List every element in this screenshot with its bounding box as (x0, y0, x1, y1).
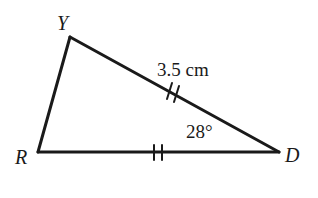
side-RY (38, 37, 70, 152)
vertex-label-D: D (285, 145, 299, 165)
angle-measure-label-D: 28° (186, 122, 213, 141)
triangle-diagram-canvas (0, 0, 318, 198)
vertex-label-Y: Y (57, 13, 68, 33)
side-length-label-YD: 3.5 cm (157, 60, 209, 79)
vertex-label-R: R (15, 147, 27, 167)
triangle-figure: Y R D 3.5 cm 28° (0, 0, 318, 198)
side-YD (70, 37, 279, 152)
